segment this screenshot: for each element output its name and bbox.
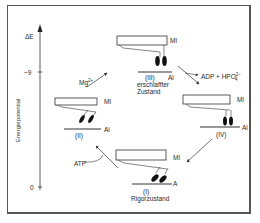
state-ii-myosin-label: Ml — [104, 98, 111, 105]
state-iii-roman: (III) — [145, 74, 155, 81]
state-i-name: Rigorzustand — [131, 195, 169, 202]
state-i-myosin-label: Ml — [173, 154, 180, 161]
energy-axis — [38, 24, 43, 190]
y-axis-title: Energiepotential — [15, 99, 21, 142]
state-ii-actin-label: Al — [104, 126, 110, 133]
state-i-actin-label: A — [173, 180, 177, 187]
state-iii-myosin-label: Ml — [170, 37, 177, 44]
state-iii-diagram — [117, 36, 172, 72]
state-i-roman: (I) — [143, 188, 149, 195]
state-i-diagram — [116, 150, 172, 184]
cycle-diagram — [0, 0, 260, 223]
adp-hpo4-label: ADP + HPO2−4 — [201, 71, 237, 83]
state-iv-actin-label: Al — [242, 124, 248, 131]
state-ii-diagram — [55, 98, 101, 129]
state-iii-name-line2: Zustand — [137, 88, 161, 95]
state-iii-name-line1: erschlaffter — [137, 81, 169, 88]
mg-label: Mg2+ — [79, 77, 93, 86]
tick-label-9: ~9 — [24, 69, 31, 76]
delta-e-label: ΔE — [25, 33, 34, 40]
tick-label-0: 0 — [30, 184, 34, 191]
state-iii-actin-label: Al — [168, 74, 174, 81]
state-iv-diagram — [183, 95, 240, 127]
state-iv-myosin-label: Ml — [237, 96, 244, 103]
atp-label: ATP — [74, 160, 86, 167]
state-ii-roman: (II) — [75, 132, 83, 139]
state-iv-roman: (IV) — [216, 131, 226, 138]
